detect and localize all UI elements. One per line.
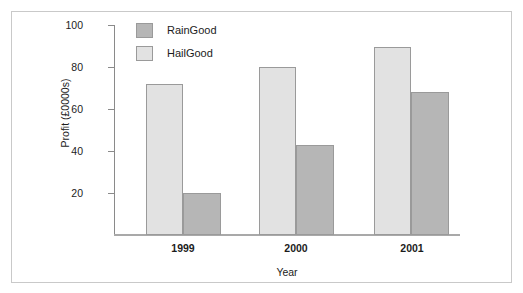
y-tick-label-20: 20: [23, 188, 83, 198]
y-tick-label-100: 100: [23, 20, 83, 30]
y-tick-80: [108, 67, 114, 68]
bar-hailgood-2000: [259, 67, 296, 235]
y-tick-100: [108, 25, 114, 26]
bar-hailgood-1999: [146, 84, 183, 235]
y-tick-label-60: 60: [23, 104, 83, 114]
x-tick-label-2001: 2001: [372, 242, 452, 254]
bar-raingood-2001: [411, 92, 449, 235]
legend-label-raingood: RainGood: [167, 24, 217, 36]
figure-frame: 100 80 60 40 20 Profit (£0000s) 1999 200…: [11, 11, 512, 283]
x-tick-label-2000: 2000: [256, 242, 336, 254]
legend-entry-hailgood: HailGood: [136, 43, 217, 63]
legend-swatch-raingood-icon: [136, 23, 153, 38]
legend-entry-raingood: RainGood: [136, 20, 217, 40]
chart-legend: RainGood HailGood: [136, 20, 217, 66]
plot-area: 100 80 60 40 20 Profit (£0000s) 1999 200…: [12, 12, 513, 284]
y-tick-40: [108, 151, 114, 152]
x-tick-label-1999: 1999: [143, 242, 223, 254]
legend-label-hailgood: HailGood: [167, 47, 213, 59]
y-tick-label-80: 80: [23, 62, 83, 72]
chart-screenshot: 100 80 60 40 20 Profit (£0000s) 1999 200…: [0, 0, 523, 293]
y-tick-20: [108, 193, 114, 194]
y-tick-60: [108, 109, 114, 110]
legend-swatch-hailgood-icon: [136, 46, 153, 61]
x-axis-title: Year: [114, 266, 460, 278]
bar-hailgood-2001: [374, 47, 411, 235]
y-axis-line: [114, 25, 115, 235]
y-axis-title: Profit (£0000s): [59, 53, 71, 173]
y-tick-label-40: 40: [23, 146, 83, 156]
bar-raingood-1999: [183, 193, 221, 235]
bar-raingood-2000: [296, 145, 334, 235]
